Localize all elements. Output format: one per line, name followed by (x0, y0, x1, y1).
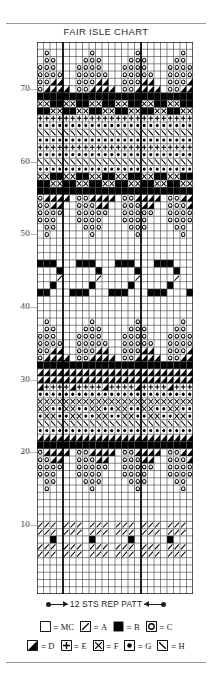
legend-item-MC: =MC (40, 621, 74, 632)
repeat-label: 12 STS REP PATT (70, 599, 142, 609)
legend-row-2: =D=E=F=G=H (0, 636, 212, 655)
row-number-60: 60 (0, 157, 37, 167)
legend-equals: = (127, 622, 132, 632)
legend-equals: = (93, 622, 98, 632)
legend-symbol-dot-icon (124, 640, 135, 651)
row-number-tick (23, 89, 37, 90)
row-number-30: 30 (0, 375, 37, 385)
repeat-arrow-left (46, 601, 68, 608)
row-number-label: 20 (21, 446, 30, 456)
row-number-rail: 10203040506070 (0, 42, 37, 594)
legend-label: C (167, 622, 173, 632)
legend-label: D (48, 641, 54, 651)
legend-row-1: =MC=A=B=C (0, 617, 212, 636)
page-title: FAIR ISLE CHART (0, 26, 212, 37)
legend-symbol-halftri-icon (27, 640, 38, 651)
chart-grid-svg (37, 42, 193, 594)
legend-equals: = (53, 622, 58, 632)
legend-symbol-filled-icon (113, 621, 124, 632)
row-number-label: 10 (21, 519, 30, 529)
legend-label: E (81, 641, 86, 651)
legend-equals: = (41, 641, 46, 651)
legend-item-E: =E (61, 640, 87, 651)
row-number-10: 10 (0, 520, 37, 530)
legend-label: B (134, 622, 140, 632)
row-number-tick (23, 234, 37, 235)
legend-label: A (101, 622, 107, 632)
top-divider (6, 23, 206, 24)
row-number-tick (23, 162, 37, 163)
legend-item-A: =A (80, 621, 107, 632)
legend-symbol-circle-icon (146, 621, 157, 632)
repeat-caption: 12 STS REP PATT (0, 599, 212, 609)
repeat-arrow-right (144, 601, 166, 608)
legend-equals: = (138, 641, 143, 651)
row-number-tick (23, 452, 37, 453)
row-number-label: 50 (21, 228, 30, 238)
row-number-20: 20 (0, 447, 37, 457)
legend-item-D: =D (27, 640, 54, 651)
legend: =MC=A=B=C =D=E=F=G=H (0, 617, 212, 655)
row-number-label: 60 (21, 156, 30, 166)
row-number-label: 70 (21, 83, 30, 93)
legend-item-F: =F (93, 640, 119, 651)
legend-item-C: =C (146, 621, 173, 632)
row-number-70: 70 (0, 84, 37, 94)
legend-item-H: =H (157, 640, 184, 651)
legend-equals: = (74, 641, 79, 651)
row-number-label: 30 (21, 374, 30, 384)
row-number-tick (23, 380, 37, 381)
legend-equals: = (159, 622, 164, 632)
legend-symbol-blank-icon (40, 621, 51, 632)
legend-equals: = (106, 641, 111, 651)
fair-isle-chart-page: FAIR ISLE CHART 10203040506070 12 STS RE… (0, 0, 212, 676)
row-number-40: 40 (0, 302, 37, 312)
legend-label: H (178, 641, 184, 651)
legend-symbol-backslash-icon (157, 640, 168, 651)
row-number-50: 50 (0, 229, 37, 239)
chart-grid (37, 42, 193, 594)
legend-label: MC (61, 622, 74, 632)
row-number-tick (23, 525, 37, 526)
legend-equals: = (171, 641, 176, 651)
row-number-tick (23, 307, 37, 308)
legend-item-B: =B (113, 621, 140, 632)
legend-label: G (145, 641, 151, 651)
row-number-label: 40 (21, 301, 30, 311)
bottom-divider (6, 662, 206, 663)
legend-symbol-cross-icon (93, 640, 104, 651)
legend-symbol-slash-icon (80, 621, 91, 632)
legend-item-G: =G (124, 640, 151, 651)
legend-symbol-plus-icon (61, 640, 72, 651)
legend-label: F (114, 641, 119, 651)
